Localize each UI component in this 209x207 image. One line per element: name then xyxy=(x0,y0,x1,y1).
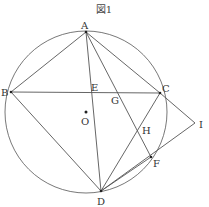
segment-cd xyxy=(101,93,160,191)
point-d-dot xyxy=(100,190,103,193)
label-a: A xyxy=(80,20,89,31)
segments xyxy=(11,32,195,191)
point-f-dot xyxy=(150,156,153,159)
point-a-dot xyxy=(85,31,88,34)
label-e: E xyxy=(91,82,98,93)
figure-title: 図1 xyxy=(96,4,112,15)
segment-ci xyxy=(160,93,195,123)
label-f: F xyxy=(153,158,160,169)
label-i: I xyxy=(199,119,203,130)
label-g: G xyxy=(111,95,119,106)
center-o-dot xyxy=(85,111,88,114)
point-b-dot xyxy=(10,91,13,94)
point-c-dot xyxy=(159,92,162,95)
label-o: O xyxy=(81,116,89,127)
label-d: D xyxy=(97,196,105,207)
vertex-dots xyxy=(10,31,162,193)
label-c: C xyxy=(162,83,170,94)
geometry-figure: 図1 A B C D E F G H I O xyxy=(0,0,209,207)
label-h: H xyxy=(142,125,151,136)
label-b: B xyxy=(1,87,8,98)
segment-bd xyxy=(11,92,101,191)
segment-bc xyxy=(11,92,160,93)
